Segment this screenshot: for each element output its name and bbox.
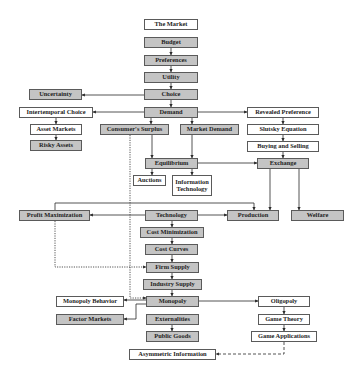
node-utility: Utility [144,72,198,83]
node-slutsky-equation: Slutsky Equation [247,124,319,135]
node-risky-assets: Risky Assets [30,140,82,151]
edge-profitmax-firmsupply-dotted [55,221,146,267]
edge-profitmax-production [55,203,254,210]
node-market-demand: Market Demand [180,124,239,135]
node-budget: Budget [144,37,198,48]
node-public-goods: Public Goods [146,331,199,342]
node-production: Production [227,210,279,221]
node-intertemporal-choice: Intertemporal Choice [19,107,93,118]
edge-monopoly-factor [124,304,146,319]
node-auctions: Auctions [133,175,166,186]
node-externalities: Externalities [146,314,199,325]
node-the-market: The Market [144,19,198,30]
node-asymmetric-information: Asymmetric Information [129,349,216,360]
node-profit-maximization: Profit Maximization [19,210,90,221]
node-welfare: Welfare [291,210,344,221]
edge-gameapps-asymmetric-dashed [216,342,284,354]
node-choice: Choice [144,89,198,100]
node-technology: Technology [145,210,198,221]
node-buying-and-selling: Buying and Selling [247,141,319,152]
edge-cs-monopoly-dotted [130,135,146,298]
node-equilibrium: Equilibrium [145,158,198,169]
economics-topic-flowchart: The Market Budget Preferences Utility Ch… [0,0,361,375]
node-demand: Demand [144,107,198,118]
node-uncertainty: Uncertainty [29,89,82,100]
node-information-technology: Information Technology [172,175,212,196]
node-industry-supply: Industry Supply [143,279,202,290]
node-preferences: Preferences [144,55,198,66]
node-exchange: Exchange [257,158,309,169]
node-asset-markets: Asset Markets [30,124,82,135]
node-factor-markets: Factor Markets [56,314,124,325]
node-firm-supply: Firm Supply [146,262,199,273]
node-monopoly-behavior: Monopoly Behavior [56,296,124,307]
node-game-applications: Game Applications [251,331,317,342]
node-cost-curves: Cost Curves [145,244,198,255]
node-game-theory: Game Theory [258,314,310,325]
node-cost-minimization: Cost Minimization [140,227,204,238]
node-monopoly: Monopoly [146,296,199,307]
node-revealed-preference: Revealed Preference [247,107,319,118]
node-oligopoly: Oligopoly [258,296,310,307]
node-consumers-surplus: Consumer's Surplus [100,124,169,135]
